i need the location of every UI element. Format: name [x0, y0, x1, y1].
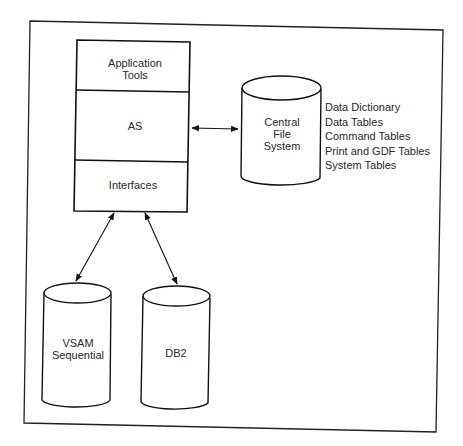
list-item: Data Dictionary	[325, 100, 430, 115]
arrow-interfaces-to-vsam	[76, 213, 114, 281]
as-label: AS	[90, 120, 180, 132]
vsam-line1: VSAM	[45, 337, 111, 349]
list-item: Data Tables	[325, 115, 430, 130]
central-contents-list: Data Dictionary Data Tables Command Tabl…	[325, 100, 430, 173]
central-line1: Central	[251, 116, 313, 128]
vsam-line2: Sequential	[45, 349, 111, 361]
central-file-system-label: Central File System	[251, 116, 313, 152]
application-tools-line1: Application	[90, 57, 180, 69]
arrow-interfaces-to-db2	[145, 213, 177, 284]
db2-label: DB2	[144, 347, 208, 359]
interfaces-label: Interfaces	[88, 179, 178, 191]
list-item: Command Tables	[325, 129, 430, 144]
vsam-label: VSAM Sequential	[45, 337, 111, 361]
list-item: System Tables	[325, 158, 430, 173]
central-line3: System	[251, 140, 313, 152]
diagram-canvas	[0, 0, 463, 446]
list-item: Print and GDF Tables	[325, 144, 430, 159]
arrow-as-to-central	[192, 128, 238, 129]
central-line2: File	[251, 128, 313, 140]
application-tools-label: Application Tools	[90, 57, 180, 81]
application-tools-line2: Tools	[90, 69, 180, 81]
